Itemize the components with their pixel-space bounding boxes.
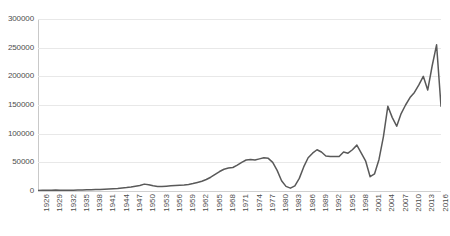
x-tick-label: 2007 (402, 194, 410, 212)
x-tick-label: 1929 (56, 194, 64, 212)
x-tick-label: 1956 (176, 194, 184, 212)
y-tick-label: 250000 (8, 44, 34, 52)
y-tick-label: 100000 (8, 130, 34, 138)
x-tick-label: 1983 (295, 194, 303, 212)
y-tick-label: 300000 (8, 15, 34, 23)
x-tick-label: 1938 (96, 194, 104, 212)
x-tick-label: 1950 (149, 194, 157, 212)
x-tick-label: 2010 (415, 194, 423, 212)
data-series-line (38, 19, 441, 191)
x-tick-label: 1941 (109, 194, 117, 212)
x-tick-label: 1965 (216, 194, 224, 212)
x-tick-label: 2001 (375, 194, 383, 212)
x-tick-label: 2013 (428, 194, 436, 212)
x-tick-label: 1968 (229, 194, 237, 212)
x-tick-label: 2016 (442, 194, 450, 212)
x-tick-label: 1977 (269, 194, 277, 212)
y-tick-label: 150000 (8, 101, 34, 109)
x-tick-label: 1962 (202, 194, 210, 212)
x-tick-label: 1953 (163, 194, 171, 212)
x-tick-label: 1992 (335, 194, 343, 212)
x-tick-label: 1944 (123, 194, 131, 212)
x-tick-label: 1998 (362, 194, 370, 212)
y-tick-label: 50000 (12, 158, 34, 166)
x-axis-tick-labels: 1926192919321935193819411944194719501953… (38, 192, 441, 236)
x-tick-label: 1980 (282, 194, 290, 212)
x-tick-label: 1932 (70, 194, 78, 212)
y-tick-label: 200000 (8, 72, 34, 80)
x-tick-label: 1935 (83, 194, 91, 212)
x-tick-label: 1947 (136, 194, 144, 212)
x-tick-label: 1989 (322, 194, 330, 212)
x-tick-label: 1974 (256, 194, 264, 212)
y-tick-label: 0 (30, 187, 34, 195)
x-tick-label: 1971 (242, 194, 250, 212)
x-tick-label: 1959 (189, 194, 197, 212)
plot-area (38, 19, 441, 191)
y-axis-tick-labels: 050000100000150000200000250000300000 (0, 0, 34, 236)
x-tick-label: 2004 (388, 194, 396, 212)
x-tick-label: 1995 (349, 194, 357, 212)
x-tick-label: 1986 (309, 194, 317, 212)
x-tick-label: 1926 (43, 194, 51, 212)
